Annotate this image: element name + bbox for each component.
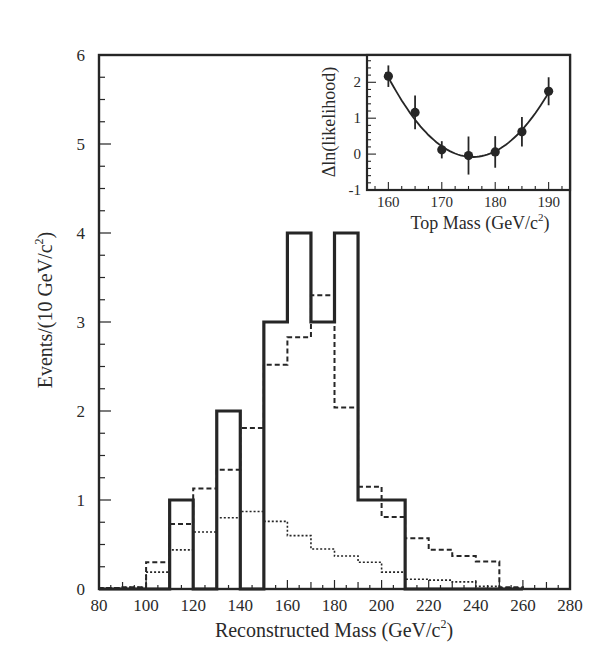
inset-x-tick-label: 160 (377, 194, 400, 210)
inset-y-tick-label: 0 (354, 146, 362, 162)
x-tick-label: 240 (463, 596, 489, 615)
y-tick-label: 1 (77, 491, 86, 510)
inset-data-point (410, 108, 419, 117)
inset-y-axis-title: Δln(likelihood) (319, 67, 340, 178)
inset-x-tick-label: 180 (484, 194, 507, 210)
inset-x-tick-label: 190 (537, 194, 560, 210)
x-tick-label: 200 (369, 596, 395, 615)
y-tick-label: 2 (77, 402, 86, 421)
x-tick-label: 100 (133, 596, 159, 615)
inset-data-point (384, 72, 393, 81)
inset-data-point (491, 147, 500, 156)
y-axis-title: Events/(10 GeV/c2) (32, 232, 57, 389)
inset-x-axis-title: Top Mass (GeV/c2) (410, 211, 549, 234)
x-tick-label: 80 (91, 596, 108, 615)
inset-data-point (544, 87, 553, 96)
histogram-chart: 801001201401601802002202402602800123456 … (0, 0, 613, 672)
y-tick-label: 4 (77, 224, 86, 243)
inset-x-tick-label: 170 (431, 194, 454, 210)
x-tick-label: 260 (510, 596, 536, 615)
inset-data-point (517, 127, 526, 136)
x-tick-label: 140 (228, 596, 254, 615)
inset-data-point (437, 145, 446, 154)
histogram-series (99, 233, 523, 589)
y-tick-label: 5 (77, 135, 86, 154)
inset-y-tick-label: 2 (354, 74, 362, 90)
inset-likelihood-plot: 160170180190-1012 (349, 55, 571, 210)
y-tick-label: 6 (77, 46, 86, 65)
y-tick-label: 0 (77, 580, 86, 599)
histogram-dashed-line (99, 295, 523, 589)
inset-y-tick-label: 1 (354, 110, 362, 126)
x-tick-label: 120 (180, 596, 206, 615)
inset-y-tick-label: -1 (349, 182, 362, 198)
inset-data-point (464, 151, 473, 160)
x-tick-label: 280 (557, 596, 583, 615)
x-axis-title: Reconstructed Mass (GeV/c2) (215, 617, 453, 642)
y-tick-label: 3 (77, 313, 86, 332)
x-tick-label: 180 (322, 596, 348, 615)
histogram-dotted-line (99, 512, 523, 589)
x-tick-label: 160 (275, 596, 301, 615)
x-tick-label: 220 (416, 596, 442, 615)
